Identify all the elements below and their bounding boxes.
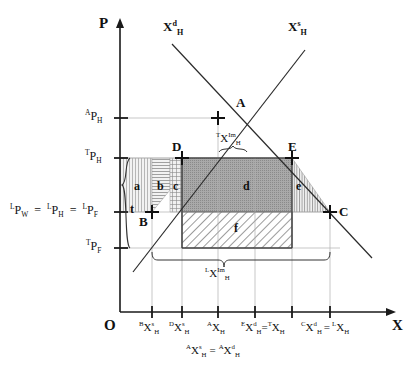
region-label-b: b — [157, 180, 164, 192]
x-tick-label-e: EXdH=TXH — [241, 322, 285, 333]
region-label-d: d — [243, 180, 250, 192]
note-sup-1: s — [199, 343, 202, 350]
y-tick-label-world: LPW = LPH = LPF — [10, 204, 98, 216]
world-price-3-sub: F — [94, 210, 98, 219]
tariff-price-sub: H — [96, 156, 101, 165]
y-axis-label: P — [99, 16, 108, 31]
tariff-imports-sup: Im — [228, 131, 236, 138]
x-tick-label-a: AXH — [207, 322, 225, 333]
x-e-sup: d — [253, 320, 256, 327]
foreign-price-sub: F — [97, 246, 101, 255]
x-a-main: X — [212, 321, 220, 333]
x-d-sub: H — [185, 328, 190, 335]
x-c-eq: = — [324, 321, 330, 333]
supply-demand-tariff-diagram: P X O XdH XsH APH TPH LPW = LPH = LPF TP… — [0, 0, 414, 367]
y-axis-arrow — [116, 18, 124, 28]
x-d-sup: s — [182, 320, 185, 327]
region-label-e: e — [296, 180, 301, 192]
x-b-sup: s — [152, 320, 155, 327]
x-d-main: X — [174, 321, 182, 333]
world-price-eq-2: = — [70, 203, 77, 217]
tariff-imports-sub: H — [236, 139, 241, 146]
brace-label-tariff-imports: TXImH — [216, 133, 241, 144]
x-tick-label-d: DXsH — [169, 322, 189, 333]
origin-label: O — [104, 318, 116, 333]
free-imports-sub: H — [225, 274, 230, 281]
point-label-E: E — [288, 140, 297, 153]
x-c-main2: X — [336, 321, 344, 333]
y-tick-label-foreign: TPF — [86, 240, 101, 252]
world-price-3-main: P — [87, 203, 94, 217]
x-c-sub2: H — [344, 328, 349, 335]
x-b-sub: H — [154, 328, 159, 335]
autarky-price-sub: H — [97, 116, 102, 125]
x-a-sub: H — [220, 328, 225, 335]
world-price-1-sub: W — [21, 210, 28, 219]
note-main-2: X — [224, 344, 232, 356]
x-tick-label-b: BXsH — [139, 322, 159, 333]
x-c-sub: H — [317, 328, 322, 335]
free-imports-main: X — [209, 267, 217, 279]
point-label-B: B — [139, 215, 148, 228]
region-label-c: c — [173, 180, 178, 192]
x-e-sub2: H — [280, 328, 285, 335]
supply-curve-label-main: X — [288, 19, 297, 34]
point-label-A: A — [236, 96, 245, 109]
x-c-main: X — [306, 321, 314, 333]
free-imports-sup: Im — [217, 266, 225, 273]
brace-free-trade-imports — [152, 252, 330, 267]
note-sub-1: H — [202, 351, 207, 358]
brace-label-free-trade-imports: LXImH — [205, 268, 230, 279]
y-tick-label-tariff: TPH — [85, 150, 102, 162]
region-d-shape — [182, 158, 292, 212]
x-b-main: X — [144, 321, 152, 333]
x-axis-arrow — [386, 308, 396, 316]
x-e-main: X — [245, 321, 253, 333]
x-c-sup: d — [314, 320, 317, 327]
diagram-canvas — [0, 0, 414, 367]
brace-tariff-imports — [219, 146, 247, 152]
note-eq: = — [209, 344, 215, 356]
demand-curve-label-main: X — [163, 19, 172, 34]
note-sub-2: H — [235, 351, 240, 358]
supply-curve-label: XsH — [288, 20, 307, 33]
tariff-imports-main: X — [220, 132, 228, 144]
point-label-D: D — [172, 140, 181, 153]
region-label-f: f — [234, 222, 238, 234]
region-label-a: a — [134, 180, 140, 192]
welfare-regions — [120, 158, 330, 248]
y-tick-label-autarky: APH — [85, 110, 102, 122]
x-axis-label: X — [392, 318, 403, 333]
brace-label-t: t — [130, 203, 134, 215]
demand-curve-label-sup: d — [172, 19, 176, 28]
note-sup-2: d — [232, 343, 235, 350]
x-e-main2: X — [272, 321, 280, 333]
autarky-quantity-note: AXsH=AXdH — [186, 345, 240, 356]
world-price-eq-1: = — [34, 203, 41, 217]
point-label-C: C — [339, 205, 348, 218]
supply-curve-label-sub: H — [301, 28, 307, 37]
world-price-2-sub: H — [58, 210, 63, 219]
demand-curve-label: XdH — [163, 20, 183, 33]
demand-curve-label-sub: H — [177, 28, 183, 37]
supply-curve-label-sup: s — [297, 19, 300, 28]
note-main-1: X — [191, 344, 199, 356]
x-tick-label-c: CXdH=LXH — [301, 322, 349, 333]
